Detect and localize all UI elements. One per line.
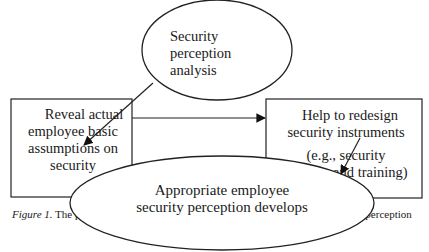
bottom-ellipse-line-2: security perception develops [112, 199, 332, 216]
bottom-ellipse-label: Appropriate employee security perception… [112, 182, 332, 216]
arrow-right-to-bottom [341, 138, 360, 174]
bottom-ellipse-line-1: Appropriate employee [112, 182, 332, 199]
